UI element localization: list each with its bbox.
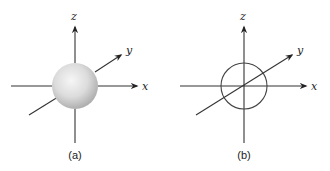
x-axis-label: x xyxy=(311,80,318,93)
diagram-canvas: z y x (a) z y x (b) xyxy=(0,0,330,171)
panel-b: z y x (b) xyxy=(180,10,318,161)
x-axis-label: x xyxy=(142,80,149,93)
y-axis-front xyxy=(29,97,58,115)
z-axis-label: z xyxy=(70,10,77,23)
y-axis-label: y xyxy=(125,44,133,57)
panel-a: z y x (a) xyxy=(11,10,149,161)
panel-caption: (a) xyxy=(68,149,81,161)
y-axis-back xyxy=(95,55,121,72)
panel-caption: (b) xyxy=(237,149,250,161)
z-axis-label: z xyxy=(239,10,246,23)
shaded-sphere xyxy=(52,63,98,109)
y-axis-label: y xyxy=(296,44,304,57)
